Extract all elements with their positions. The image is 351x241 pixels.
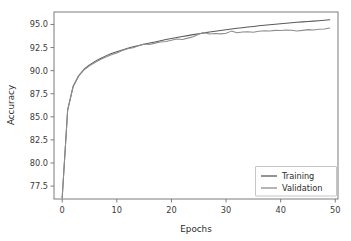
y-tick-label-95.0: 95.0 xyxy=(30,19,48,29)
y-tick-label-90.0: 90.0 xyxy=(30,66,48,76)
y-tick-label-80.0: 80.0 xyxy=(30,158,48,168)
legend-label-training: Training xyxy=(281,171,314,181)
y-axis-ticks: 77.580.082.585.087.590.092.595.0 xyxy=(30,19,54,191)
legend[interactable]: Training Validation xyxy=(256,167,337,197)
x-tick-label-20: 20 xyxy=(166,205,176,215)
legend-label-validation: Validation xyxy=(282,183,322,193)
y-axis-label: Accuracy xyxy=(6,85,16,125)
y-tick-label-87.5: 87.5 xyxy=(30,89,48,99)
y-tick-label-77.5: 77.5 xyxy=(30,181,48,191)
x-tick-label-10: 10 xyxy=(112,205,122,215)
x-tick-label-30: 30 xyxy=(221,205,231,215)
line-chart: 01020304050 77.580.082.585.087.590.092.5… xyxy=(0,0,351,241)
x-tick-label-40: 40 xyxy=(275,205,285,215)
y-tick-label-82.5: 82.5 xyxy=(30,135,48,145)
x-axis-ticks: 01020304050 xyxy=(60,199,341,215)
x-axis-label: Epochs xyxy=(180,224,212,234)
y-tick-label-85.0: 85.0 xyxy=(30,112,48,122)
figure-canvas: 01020304050 77.580.082.585.087.590.092.5… xyxy=(0,0,351,241)
x-tick-label-0: 0 xyxy=(60,205,65,215)
y-tick-label-92.5: 92.5 xyxy=(30,43,48,53)
x-tick-label-50: 50 xyxy=(330,205,340,215)
